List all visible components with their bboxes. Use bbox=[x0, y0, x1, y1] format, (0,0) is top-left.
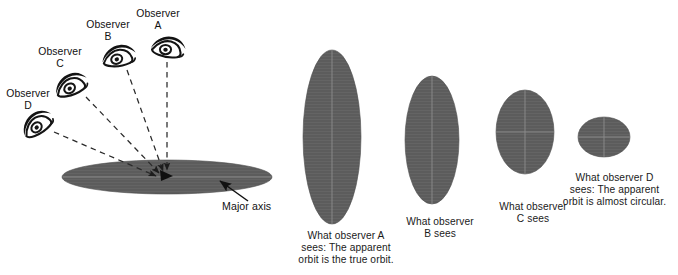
observer-b-label: Observer B bbox=[80, 19, 136, 42]
apparent-orbit-b bbox=[405, 76, 459, 204]
observer-b-eye-icon bbox=[99, 41, 138, 72]
apparent-orbit-d bbox=[578, 117, 630, 157]
major-axis-label: Major axis bbox=[222, 200, 271, 212]
observer-c-eye-icon bbox=[51, 67, 91, 102]
apparent-orbit-a bbox=[303, 50, 361, 224]
observer-c-label: Observer C bbox=[32, 46, 88, 69]
observer-a-eye-icon bbox=[151, 36, 186, 57]
binary-star-apparent-orbit-figure: Observer A Observer B Observer C Observe… bbox=[0, 0, 678, 275]
sight-line-observer-b bbox=[127, 70, 163, 171]
observer-a-label: Observer A bbox=[130, 8, 186, 31]
apparent-orbit-d-caption: What observer D sees: The apparent orbit… bbox=[551, 172, 678, 209]
observer-d-label: Observer D bbox=[0, 88, 56, 111]
apparent-orbit-c bbox=[496, 90, 554, 174]
